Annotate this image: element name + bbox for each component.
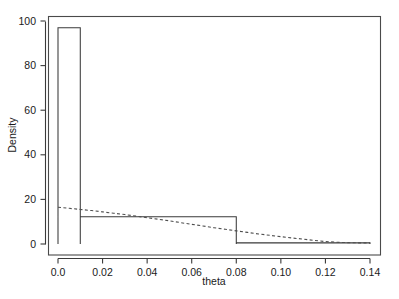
x-tick-label: 0.0 [51, 266, 66, 278]
x-tick-label: 0.14 [360, 266, 381, 278]
y-tick-label: 100 [18, 15, 36, 27]
y-tick-label: 80 [24, 59, 36, 71]
histogram-outline [58, 28, 370, 244]
x-tick-marks [58, 259, 370, 264]
y-tick-label: 20 [24, 193, 36, 205]
fitted-density-curve [58, 207, 370, 243]
y-tick-marks [41, 21, 46, 244]
y-tick-label: 60 [24, 104, 36, 116]
density-histogram-figure: 020406080100 0.00.020.040.060.080.100.12… [0, 0, 399, 299]
x-axis [58, 259, 370, 264]
x-tick-label: 0.04 [137, 266, 158, 278]
y-axis [41, 21, 46, 245]
x-tick-label: 0.06 [181, 266, 202, 278]
y-tick-label: 0 [30, 238, 36, 250]
x-axis-title: theta [202, 275, 226, 287]
x-tick-label: 0.12 [315, 266, 336, 278]
x-tick-label: 0.10 [271, 266, 292, 278]
plot-frame [49, 17, 381, 256]
x-tick-label: 0.08 [226, 266, 247, 278]
plot-canvas: 020406080100 0.00.020.040.060.080.100.12… [0, 0, 399, 299]
y-tick-label-group: 020406080100 [18, 15, 36, 250]
y-tick-label: 40 [24, 148, 36, 160]
x-tick-label: 0.02 [92, 266, 113, 278]
y-axis-title: Density [6, 117, 18, 153]
